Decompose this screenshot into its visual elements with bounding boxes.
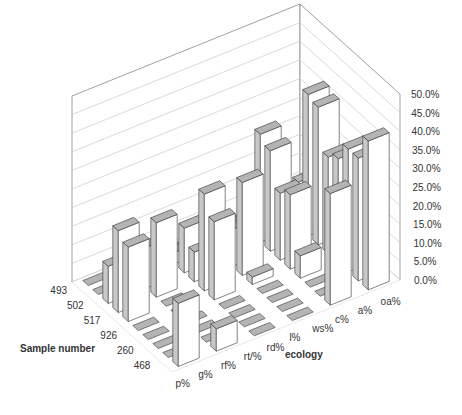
category-label: rt/% bbox=[244, 351, 262, 362]
sample-label: 260 bbox=[117, 345, 134, 356]
bar bbox=[237, 169, 263, 275]
bar-side bbox=[353, 153, 359, 281]
sample-label: 468 bbox=[134, 360, 151, 371]
z-tick-label: 5.0% bbox=[414, 256, 437, 267]
z-tick-label: 30.0% bbox=[412, 163, 440, 174]
z-tick-label: 20.0% bbox=[413, 201, 441, 212]
z-tick-label: 50.0% bbox=[411, 89, 439, 100]
sample-label: 502 bbox=[67, 300, 84, 311]
sample-label: 517 bbox=[84, 315, 101, 326]
bar bbox=[325, 180, 351, 305]
y-axis-title: Sample number bbox=[20, 343, 95, 354]
bar-front bbox=[156, 214, 177, 297]
bar-front bbox=[214, 213, 235, 300]
bar bbox=[123, 234, 149, 322]
bar-side bbox=[189, 247, 195, 282]
bar-side bbox=[275, 188, 281, 260]
z-tick-label: 25.0% bbox=[413, 182, 441, 193]
bar-side bbox=[151, 218, 157, 297]
category-label: l% bbox=[289, 332, 300, 343]
z-tick-label: 15.0% bbox=[413, 219, 441, 230]
z-tick-label: 45.0% bbox=[411, 108, 439, 119]
bar-side bbox=[209, 217, 215, 300]
bar bbox=[363, 128, 389, 290]
bar-side bbox=[363, 136, 369, 290]
sample-label: 926 bbox=[100, 330, 117, 341]
bar-front bbox=[368, 133, 389, 290]
bar-side bbox=[179, 223, 185, 273]
bar-front bbox=[242, 174, 263, 275]
bar-front bbox=[330, 185, 351, 305]
bar-side bbox=[123, 242, 129, 321]
sample-label: 493 bbox=[50, 285, 67, 296]
category-label: a% bbox=[358, 305, 373, 316]
bar-side bbox=[313, 102, 319, 245]
category-label: ws% bbox=[311, 323, 333, 334]
bar-side bbox=[199, 189, 205, 291]
bar bbox=[173, 290, 199, 367]
category-label: rd% bbox=[267, 342, 285, 353]
bar-side bbox=[173, 298, 179, 366]
bar-side bbox=[103, 261, 109, 303]
bar-side bbox=[237, 178, 243, 276]
z-tick-label: 35.0% bbox=[412, 145, 440, 156]
bar-front bbox=[128, 239, 149, 322]
z-tick-label: 0.0% bbox=[414, 275, 437, 286]
bar-side bbox=[285, 190, 291, 269]
category-label: oa% bbox=[381, 296, 401, 307]
bar-side bbox=[325, 189, 331, 306]
bar bbox=[151, 209, 177, 297]
category-label: g% bbox=[198, 369, 213, 380]
z-tick-label: 10.0% bbox=[413, 238, 441, 249]
bar-front bbox=[178, 295, 199, 367]
z-tick-label: 40.0% bbox=[412, 126, 440, 137]
x-axis-title: ecology bbox=[285, 349, 323, 360]
bar-side bbox=[113, 226, 119, 313]
category-label: rf% bbox=[221, 360, 236, 371]
category-label: c% bbox=[335, 314, 349, 325]
bar-side bbox=[265, 146, 271, 251]
3d-column-chart: 0.0%5.0%10.0%15.0%20.0%25.0%30.0%35.0%40… bbox=[0, 0, 462, 415]
bar bbox=[209, 208, 235, 300]
category-label: p% bbox=[175, 378, 190, 389]
